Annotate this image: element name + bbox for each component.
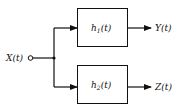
block-h1-label: h1(t) — [91, 23, 112, 34]
block-h2-label: h2(t) — [91, 80, 112, 91]
input-label: X(t) — [5, 53, 24, 63]
block-diagram: X(t) h1(t) Y(t) h2(t) Z(t) — [0, 0, 178, 109]
output-y-label: Y(t) — [155, 23, 172, 33]
input-terminal-icon — [28, 56, 33, 61]
output-z-label: Z(t) — [154, 82, 172, 92]
